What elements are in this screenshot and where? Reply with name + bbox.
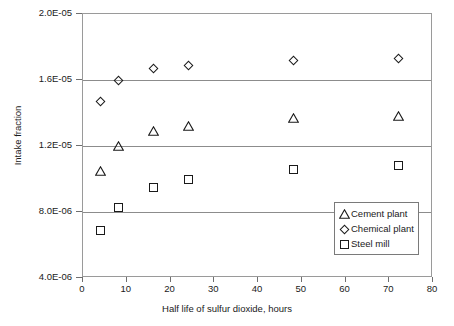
x-axis-tick-label: 10 (111, 283, 141, 294)
x-axis-tick (388, 277, 389, 282)
x-axis-tick (345, 277, 346, 282)
x-axis-tick-label: 0 (67, 283, 97, 294)
data-point (183, 60, 193, 70)
legend-item: Cement plant (338, 206, 414, 221)
data-point (148, 63, 158, 73)
data-point (148, 126, 159, 136)
gridline (83, 146, 431, 147)
chart-legend: Cement plantChemical plantSteel mill (334, 202, 419, 255)
x-axis-tick (432, 277, 433, 282)
x-axis-tick-label: 30 (198, 283, 228, 294)
triangle-icon (338, 207, 351, 220)
y-axis-title: Intake fraction (12, 76, 23, 196)
data-point (184, 175, 193, 184)
legend-item: Steel mill (338, 236, 414, 251)
x-axis-tick-label: 50 (286, 283, 316, 294)
data-point (393, 111, 404, 121)
data-point (114, 203, 123, 212)
legend-label: Cement plant (351, 209, 408, 219)
data-point (289, 165, 298, 174)
x-axis-tick-label: 20 (155, 283, 185, 294)
legend-label: Steel mill (351, 239, 390, 249)
data-point (96, 96, 106, 106)
square-icon (338, 237, 351, 250)
gridline (83, 80, 431, 81)
data-point (288, 113, 299, 123)
y-axis-tick-label: 2.0E-05 (12, 8, 72, 18)
data-point (393, 54, 403, 64)
x-axis-tick-label: 70 (373, 283, 403, 294)
x-axis-tick-label: 60 (330, 283, 360, 294)
y-axis-tick (76, 79, 82, 80)
y-axis-tick (76, 13, 82, 14)
x-axis-tick-label: 40 (242, 283, 272, 294)
x-axis-tick (170, 277, 171, 282)
data-point (183, 121, 194, 131)
x-axis-title: Half life of sulfur dioxide, hours (0, 303, 454, 314)
x-axis-tick-label: 80 (417, 283, 447, 294)
data-point (113, 141, 124, 151)
data-point (113, 75, 123, 85)
x-axis-tick (126, 277, 127, 282)
data-point (149, 183, 158, 192)
data-point (288, 55, 298, 65)
data-point (95, 166, 106, 176)
x-axis-tick (82, 277, 83, 282)
legend-item: Chemical plant (338, 221, 414, 236)
chart-container: 4.0E-068.0E-061.2E-051.6E-052.0E-05 0102… (0, 0, 454, 326)
data-point (394, 161, 403, 170)
y-axis-tick (76, 145, 82, 146)
x-axis-tick (213, 277, 214, 282)
y-axis-tick-label: 4.0E-06 (12, 272, 72, 282)
diamond-icon (338, 222, 351, 235)
x-axis-tick (257, 277, 258, 282)
data-point (96, 226, 105, 235)
x-axis-tick (301, 277, 302, 282)
y-axis-tick (76, 211, 82, 212)
legend-label: Chemical plant (351, 224, 414, 234)
y-axis-tick-label: 8.0E-06 (12, 206, 72, 216)
